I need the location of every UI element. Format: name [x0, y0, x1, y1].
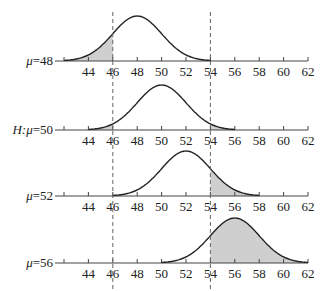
- x-tick-label: 58: [253, 64, 266, 79]
- normal-curve: [88, 85, 234, 130]
- x-tick-label: 48: [131, 199, 144, 214]
- shaded-area: [210, 218, 308, 263]
- x-tick-label: 50: [155, 266, 168, 281]
- x-tick-label: 60: [277, 64, 290, 79]
- x-tick-label: 52: [180, 266, 193, 281]
- x-tick-label: 52: [180, 199, 193, 214]
- x-tick-label: 62: [302, 133, 315, 148]
- panel-label: μ=56: [25, 255, 53, 270]
- x-tick-label: 58: [253, 133, 266, 148]
- x-tick-label: 48: [131, 133, 144, 148]
- x-tick-label: 50: [155, 133, 168, 148]
- normal-curves-figure: 44464850525456586062μ=484446485052545658…: [0, 0, 326, 291]
- x-tick-label: 56: [228, 266, 242, 281]
- normal-curve: [113, 151, 259, 196]
- x-tick-label: 48: [131, 266, 144, 281]
- shaded-area: [210, 169, 259, 196]
- x-tick-label: 44: [82, 266, 96, 281]
- x-tick-label: 58: [253, 266, 266, 281]
- panel-mu-56: 44464850525456586062μ=56: [25, 218, 314, 281]
- normal-curve: [64, 16, 210, 61]
- x-tick-label: 62: [302, 199, 315, 214]
- x-tick-label: 62: [302, 266, 315, 281]
- x-tick-label: 50: [155, 64, 168, 79]
- x-tick-label: 56: [228, 64, 242, 79]
- x-tick-label: 44: [82, 133, 96, 148]
- x-tick-label: 52: [180, 64, 193, 79]
- x-tick-label: 56: [228, 199, 242, 214]
- panel-mu-50: 44464850525456586062H:μ=50: [11, 85, 314, 148]
- x-tick-label: 48: [131, 64, 144, 79]
- x-tick-label: 44: [82, 199, 96, 214]
- shaded-area: [64, 34, 113, 61]
- panel-mu-52: 44464850525456586062μ=52: [25, 151, 314, 214]
- x-tick-label: 50: [155, 199, 168, 214]
- x-tick-label: 44: [82, 64, 96, 79]
- panel-label: H:μ=50: [11, 122, 53, 137]
- x-tick-label: 58: [253, 199, 266, 214]
- x-tick-label: 52: [180, 133, 193, 148]
- x-tick-label: 60: [277, 199, 290, 214]
- x-tick-label: 60: [277, 133, 290, 148]
- panel-label: μ=48: [25, 53, 53, 68]
- x-tick-label: 56: [228, 133, 242, 148]
- x-tick-label: 60: [277, 266, 290, 281]
- panel-label: μ=52: [25, 188, 53, 203]
- x-tick-label: 62: [302, 64, 315, 79]
- panel-mu-48: 44464850525456586062μ=48: [25, 16, 314, 79]
